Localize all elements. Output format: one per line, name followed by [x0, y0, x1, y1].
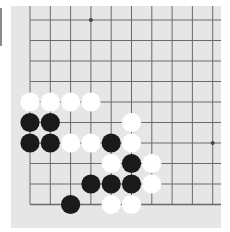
- black-stone[interactable]: [81, 174, 100, 193]
- black-stone[interactable]: [61, 195, 80, 214]
- black-stone[interactable]: [41, 113, 60, 132]
- black-stone[interactable]: [122, 154, 141, 173]
- star-point: [211, 141, 215, 145]
- white-stone[interactable]: [41, 92, 60, 111]
- black-stone[interactable]: [102, 174, 121, 193]
- star-point: [89, 18, 93, 22]
- white-stone[interactable]: [122, 133, 141, 152]
- white-stone[interactable]: [20, 92, 39, 111]
- white-stone[interactable]: [61, 133, 80, 152]
- white-stone[interactable]: [81, 133, 100, 152]
- black-stone[interactable]: [102, 133, 121, 152]
- white-stone[interactable]: [122, 195, 141, 214]
- black-stone[interactable]: [122, 174, 141, 193]
- white-stone[interactable]: [102, 195, 121, 214]
- white-stone[interactable]: [142, 174, 161, 193]
- white-stone[interactable]: [81, 92, 100, 111]
- go-board-grid[interactable]: [0, 0, 230, 232]
- white-stone[interactable]: [102, 154, 121, 173]
- white-stone[interactable]: [61, 92, 80, 111]
- black-stone[interactable]: [41, 133, 60, 152]
- black-stone[interactable]: [20, 133, 39, 152]
- black-stone[interactable]: [20, 113, 39, 132]
- white-stone[interactable]: [122, 113, 141, 132]
- white-stone[interactable]: [142, 154, 161, 173]
